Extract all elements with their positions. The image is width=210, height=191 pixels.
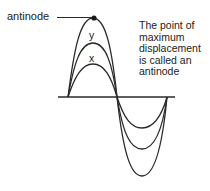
antinode-caption: The point of maximum displacement is cal… <box>139 20 210 78</box>
wave-curve-x-lower <box>117 97 167 128</box>
caption-line: displacement <box>139 43 210 55</box>
antinode-dot <box>91 15 96 20</box>
wave-curve-x-upper <box>68 64 117 97</box>
standing-wave-diagram: antinode The point of maximum displaceme… <box>0 0 210 191</box>
antinode-label: antinode <box>7 10 49 23</box>
wave-curve-large-lower <box>117 97 167 176</box>
wave-curve-y-lower <box>117 97 167 149</box>
curve-label-y: y <box>89 30 94 41</box>
caption-line: The point of <box>139 20 210 32</box>
caption-line: antinode <box>139 66 210 78</box>
curve-label-x: x <box>89 53 94 64</box>
